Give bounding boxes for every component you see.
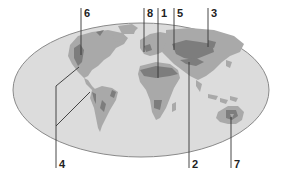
label-1: 1 [161,7,167,19]
world-map-figure: 6 8 1 5 3 2 7 4 [0,0,282,177]
label-8: 8 [147,7,153,19]
label-6: 6 [84,7,90,19]
label-2: 2 [192,158,198,170]
label-5: 5 [177,7,183,19]
label-3: 3 [211,7,217,19]
label-7: 7 [234,158,240,170]
label-4: 4 [59,158,66,170]
